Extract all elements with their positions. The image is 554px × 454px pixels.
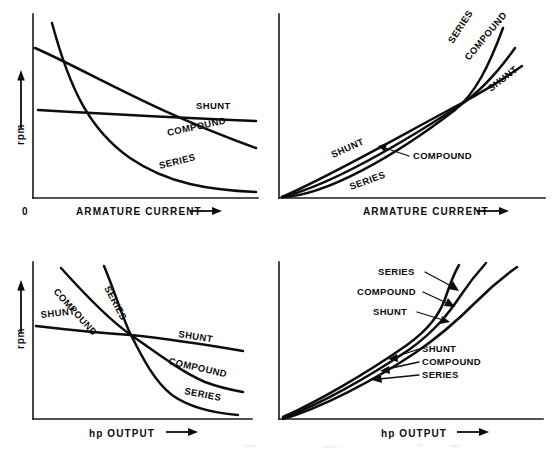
- y-axis-label: rpm: [15, 124, 26, 145]
- curve-label-series-right: SERIES: [184, 385, 223, 403]
- x-axis-label: hp OUTPUT: [381, 428, 447, 439]
- curve-label-series-top: SERIES: [378, 266, 415, 277]
- curve-label-shunt-left: SHUNT: [40, 305, 76, 320]
- curve-label-compound-top: COMPOUND: [357, 286, 416, 297]
- dc-motor-characteristics-figure: rpm 0 ARMATURE CURRENT SHUNT COMPOUND SE…: [0, 0, 554, 454]
- curve-compound: [282, 48, 515, 197]
- y-axis-label-group: rpm: [15, 280, 26, 349]
- chart-speed-vs-hp-output: rpm hp OUTPUT COMPOUND SERIES SHUNT SHUN…: [0, 227, 277, 454]
- chart-torque-vs-hp-output: TORQUE hp OUTPUT SERIES COMPOUND: [277, 227, 554, 454]
- x-axis-label-group: ARMATURE CURRENT: [76, 206, 222, 217]
- y-axis-label: rpm: [15, 328, 26, 349]
- curve-label-shunt-top: SHUNT: [373, 306, 407, 317]
- callout-compound-top: COMPOUND: [357, 286, 455, 307]
- x-axis-label-group: hp OUTPUT: [381, 428, 489, 439]
- chart-torque-vs-armature-current: TORQUE 0 ARMATURE CURRENT SERIES COMPOUN…: [277, 0, 554, 227]
- curve-label-compound-right: COMPOUND: [168, 355, 229, 379]
- x-axis-label: ARMATURE CURRENT: [76, 206, 202, 217]
- x-axis-label: hp OUTPUT: [89, 428, 155, 439]
- curve-label-series: SERIES: [158, 151, 197, 171]
- curve-label-compound-low: COMPOUND: [422, 356, 481, 367]
- curve-label-series-low: SERIES: [422, 369, 459, 380]
- x-axis-label-group: ARMATURE CURRENT: [363, 206, 509, 217]
- curve-label-shunt-low: SHUNT: [422, 343, 456, 354]
- origin-label: 0: [22, 206, 28, 217]
- y-axis-label-group: rpm: [15, 70, 26, 145]
- chart-speed-vs-armature-current: rpm 0 ARMATURE CURRENT SHUNT COMPOUND SE…: [0, 0, 277, 227]
- curve-label-series-top: SERIES: [445, 8, 475, 45]
- curve-compound: [35, 48, 256, 148]
- curve-label-compound-callout: COMPOUND: [413, 150, 472, 161]
- curve-label-shunt: SHUNT: [196, 100, 231, 111]
- x-axis-label: ARMATURE CURRENT: [363, 206, 489, 217]
- x-axis-label-group: hp OUTPUT: [89, 428, 198, 439]
- curve-label-series-low: SERIES: [348, 169, 387, 192]
- curve-label-shunt-low: SHUNT: [329, 136, 365, 160]
